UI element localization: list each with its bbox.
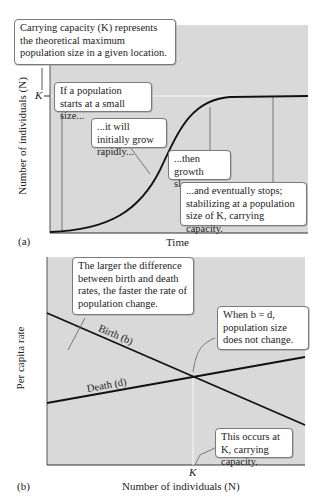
diagram-graphics <box>0 0 320 502</box>
panel-b-y-axis-label: Per capita rate <box>14 318 26 398</box>
callout-carrying-capacity: Carrying capacity (K) represents the the… <box>14 19 176 65</box>
panel-b-x-axis-label: Number of individuals (N) <box>122 480 240 492</box>
callout-occurs-at-k: This occurs at K, carrying capacity. <box>215 428 293 458</box>
callout-small-start: If a population starts at a small size..… <box>54 82 152 112</box>
callout-b-equals-d: When b = d, population size does not cha… <box>217 306 309 350</box>
panel-b-tag: (b) <box>17 480 30 492</box>
k-tick-label-a: K <box>35 89 42 101</box>
death-rate-line <box>47 357 305 403</box>
callout-growth-slows: ...then growth slows... <box>168 150 231 180</box>
callout-grow-rapidly: ...it will initially grow rapidly... <box>91 118 167 148</box>
leader-b-equals-d <box>193 338 215 372</box>
leader-occurs-at-k <box>195 448 215 465</box>
k-tick-label-b: K <box>189 466 196 478</box>
panel-a-y-axis-label: Number of individuals (N) <box>16 76 28 196</box>
panel-a-tag: (a) <box>18 235 30 247</box>
panel-a-x-axis-label: Time <box>166 236 189 248</box>
callout-larger-difference: The larger the difference between birth … <box>72 257 194 315</box>
callout-eventually-stops: ...and eventually stops; stabilizing at … <box>180 182 307 226</box>
